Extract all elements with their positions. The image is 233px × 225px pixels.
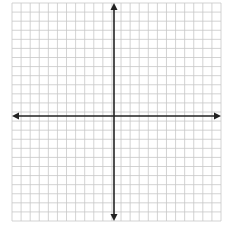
background: [0, 0, 233, 225]
coordinate-plane: [0, 0, 233, 225]
